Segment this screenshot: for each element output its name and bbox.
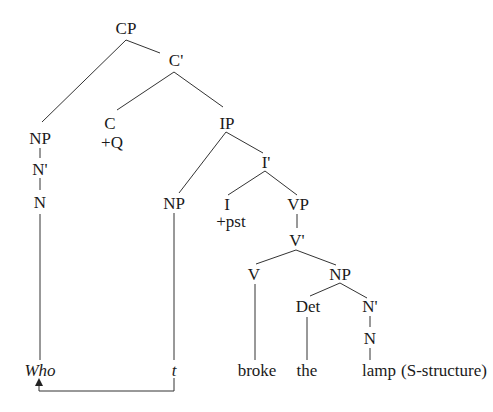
node-det: Det [296, 298, 321, 315]
caption: (S-structure) [401, 362, 487, 379]
movement-arrow-line [39, 378, 174, 391]
node-vp: VP [287, 196, 309, 213]
leaf-lamp: lamp [362, 362, 396, 379]
node-c-bar: C' [169, 52, 183, 69]
node-i-bar: I' [262, 154, 271, 171]
node-n-bar-object: N' [362, 298, 377, 315]
node-v-bar: V' [289, 232, 304, 249]
node-v: V [248, 266, 260, 283]
node-np-object: NP [329, 266, 351, 283]
node-c-feature: +Q [101, 134, 123, 151]
leaf-who: Who [24, 362, 55, 379]
leaf-the: the [297, 362, 318, 379]
node-n-spec-cp: N [34, 194, 46, 211]
node-np-subject: NP [163, 195, 185, 212]
node-n-bar-spec-cp: N' [32, 161, 47, 178]
tree-lines [0, 0, 493, 412]
node-i: I [224, 196, 230, 213]
node-cp: CP [116, 20, 137, 37]
node-n-object: N [364, 330, 376, 347]
node-ip: IP [219, 115, 234, 132]
node-c: C [104, 115, 115, 132]
node-np-spec-cp: NP [29, 130, 51, 147]
leaf-trace: t [172, 362, 177, 379]
node-i-feature: +pst [216, 213, 245, 230]
leaf-broke: broke [238, 362, 277, 379]
